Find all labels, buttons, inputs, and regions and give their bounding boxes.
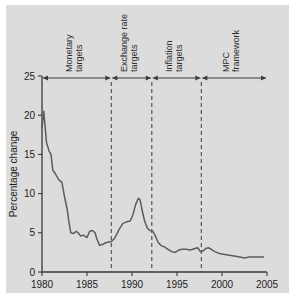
x-tick-label: 1990	[121, 279, 144, 290]
x-tick-label: 1995	[166, 279, 189, 290]
data-series-line	[42, 111, 263, 258]
arrow-head-right	[105, 75, 110, 80]
regime-label-text: Inflation	[164, 40, 174, 72]
x-tick-label: 2000	[211, 279, 234, 290]
arrow-head-left	[202, 75, 207, 80]
regime-label-text: targets	[74, 44, 84, 72]
arrow-head-right	[261, 75, 266, 80]
y-tick-label: 5	[29, 227, 35, 238]
regime-label-text: targets	[174, 44, 184, 72]
chart-container: 0510152025198019851990199520002005Percen…	[0, 0, 295, 308]
x-tick-label: 1985	[76, 279, 99, 290]
y-tick-label: 10	[24, 188, 36, 199]
arrow-head-right	[146, 75, 151, 80]
x-tick-label: 2005	[256, 279, 279, 290]
chart-axes	[42, 76, 267, 272]
regime-label-text: MPC	[221, 52, 231, 73]
arrow-head-left	[43, 75, 48, 80]
arrow-head-left	[153, 75, 158, 80]
regime-label-text: Monetary	[64, 34, 74, 72]
y-tick-label: 25	[24, 71, 36, 82]
regime-label-text: Exchange rate	[119, 14, 129, 72]
y-tick-label: 20	[24, 110, 36, 121]
y-tick-label: 15	[24, 149, 36, 160]
y-axis-title: Percentage change	[8, 130, 19, 217]
x-tick-label: 1980	[31, 279, 54, 290]
regime-label-text: targets	[129, 44, 139, 72]
arrow-head-left	[112, 75, 117, 80]
regime-label-text: framework	[231, 29, 241, 72]
inflation-line-chart: 0510152025198019851990199520002005Percen…	[0, 0, 295, 308]
y-tick-label: 0	[29, 267, 35, 278]
arrow-head-right	[195, 75, 200, 80]
